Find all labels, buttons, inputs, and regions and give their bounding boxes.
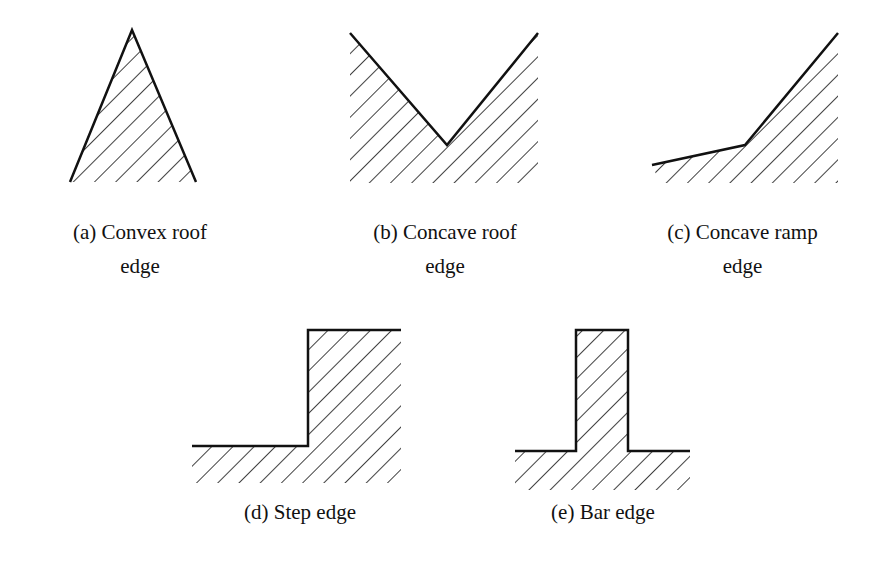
edge-types-diagram — [0, 0, 889, 577]
caption-b-line1: (b) Concave roof — [345, 215, 545, 249]
caption-c: (c) Concave ramp edge — [640, 215, 845, 283]
convex-roof-shape — [70, 30, 196, 182]
concave-roof-shape — [350, 33, 538, 183]
caption-e: (e) Bar edge — [503, 495, 703, 529]
caption-b: (b) Concave roof edge — [345, 215, 545, 283]
caption-e-line1: (e) Bar edge — [503, 495, 703, 529]
caption-a-line2: edge — [40, 249, 240, 283]
caption-b-line2: edge — [345, 249, 545, 283]
concave-ramp-shape — [652, 33, 838, 183]
caption-c-line1: (c) Concave ramp — [640, 215, 845, 249]
step-edge-shape — [192, 330, 401, 483]
caption-d: (d) Step edge — [200, 495, 400, 529]
caption-d-line1: (d) Step edge — [200, 495, 400, 529]
bar-edge-shape — [515, 330, 690, 490]
caption-c-line2: edge — [640, 249, 845, 283]
caption-a: (a) Convex roof edge — [40, 215, 240, 283]
caption-a-line1: (a) Convex roof — [40, 215, 240, 249]
